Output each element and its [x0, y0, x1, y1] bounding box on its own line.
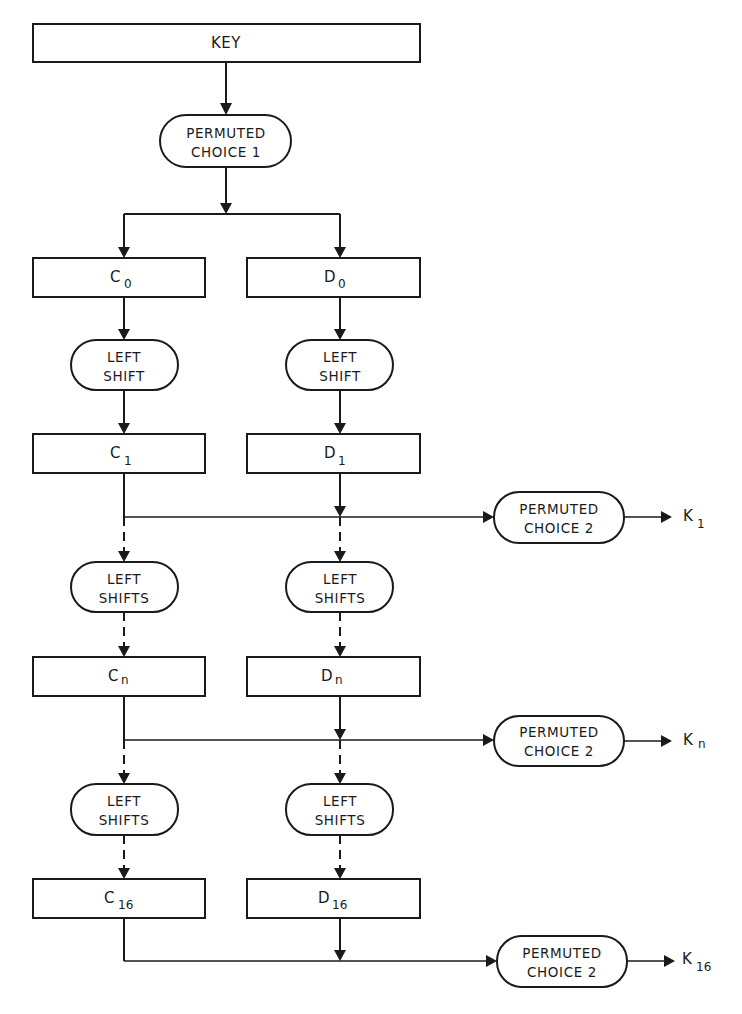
arrows-shift2-to-rown [118, 612, 346, 657]
kn-sub: n [698, 737, 706, 751]
output-k1: K 1 [624, 507, 705, 531]
left-shifts-c-3: LEFT SHIFTS [71, 784, 178, 835]
output-k16: K 16 [627, 950, 711, 974]
permuted-choice-2-k1: PERMUTED CHOICE 2 [494, 492, 624, 543]
permuted-choice-1: PERMUTED CHOICE 1 [160, 115, 291, 167]
permuted-choice-2-kn: PERMUTED CHOICE 2 [494, 716, 624, 766]
left-shifts-c-2: LEFT SHIFTS [71, 562, 178, 612]
d16-base: D [318, 889, 330, 907]
c16-sub: 16 [118, 898, 133, 912]
left-shift-c-1: LEFT SHIFT [71, 340, 178, 390]
register-d16: D 16 [247, 879, 420, 918]
register-cn: C n [33, 657, 205, 696]
permuted-choice-2-k16: PERMUTED CHOICE 2 [497, 936, 627, 987]
register-dn: D n [247, 657, 420, 696]
arrows-rown-to-pc2 [124, 696, 494, 746]
cn-sub: n [121, 673, 129, 687]
shift-d1-line2: SHIFT [319, 368, 361, 384]
arrows-shift3-to-row16 [118, 835, 346, 879]
d0-base: D [324, 268, 336, 286]
pc1-line1: PERMUTED [186, 125, 266, 141]
register-d0: D 0 [247, 258, 420, 297]
register-c0: C 0 [33, 258, 205, 297]
shift-d2-line2: SHIFTS [315, 590, 366, 606]
k1-base: K [683, 507, 694, 525]
kn-base: K [683, 731, 694, 749]
shift-c1-line1: LEFT [107, 349, 141, 365]
register-c16: C 16 [33, 879, 205, 918]
shift-d1-line1: LEFT [323, 349, 357, 365]
shift-c3-line2: SHIFTS [99, 812, 150, 828]
pc2-k16-line1: PERMUTED [522, 945, 602, 961]
shift-c1-line2: SHIFT [103, 368, 145, 384]
key-label: KEY [211, 34, 241, 52]
dn-sub: n [335, 673, 343, 687]
k1-sub: 1 [697, 517, 705, 531]
key-box: KEY [33, 24, 420, 62]
arrows-row16-to-pc2 [124, 918, 497, 967]
register-d1: D 1 [247, 434, 420, 473]
k16-base: K [682, 950, 693, 968]
pc2-kn-line1: PERMUTED [519, 724, 599, 740]
left-shifts-d-3: LEFT SHIFTS [286, 784, 393, 835]
arrows-row0-to-shift [118, 297, 346, 340]
d1-base: D [324, 444, 336, 462]
shift-c3-line1: LEFT [107, 793, 141, 809]
pc2-k1-line2: CHOICE 2 [524, 520, 594, 536]
pc1-line2: CHOICE 1 [191, 144, 261, 160]
arrow-pc1-split [118, 167, 346, 258]
shift-d2-line1: LEFT [323, 571, 357, 587]
arrows-row1-to-shift2 [118, 517, 346, 562]
c16-base: C [104, 889, 115, 907]
key-schedule-diagram: KEY PERMUTED CHOICE 1 C 0 D 0 [0, 0, 742, 1014]
k16-sub: 16 [696, 960, 711, 974]
arrow-key-to-pc1 [220, 62, 232, 115]
arrows-row1-to-pc2 [124, 473, 494, 523]
d16-sub: 16 [332, 898, 347, 912]
shift-c2-line1: LEFT [107, 571, 141, 587]
arrows-shift1-to-row1 [118, 390, 346, 434]
shift-c2-line2: SHIFTS [99, 590, 150, 606]
register-c1: C 1 [33, 434, 205, 473]
pc2-kn-line2: CHOICE 2 [524, 743, 594, 759]
shift-d3-line2: SHIFTS [315, 812, 366, 828]
cn-base: C [108, 667, 119, 685]
pc2-k16-line2: CHOICE 2 [527, 964, 597, 980]
left-shift-d-1: LEFT SHIFT [286, 340, 393, 390]
d1-sub: 1 [338, 454, 346, 468]
c1-base: C [110, 444, 121, 462]
output-kn: K n [624, 731, 706, 751]
d0-sub: 0 [338, 277, 346, 291]
arrows-rown-to-shift3 [118, 740, 346, 784]
dn-base: D [321, 667, 333, 685]
c0-base: C [110, 268, 121, 286]
left-shifts-d-2: LEFT SHIFTS [286, 562, 393, 612]
shift-d3-line1: LEFT [323, 793, 357, 809]
pc2-k1-line1: PERMUTED [519, 501, 599, 517]
c1-sub: 1 [124, 454, 132, 468]
c0-sub: 0 [124, 277, 132, 291]
